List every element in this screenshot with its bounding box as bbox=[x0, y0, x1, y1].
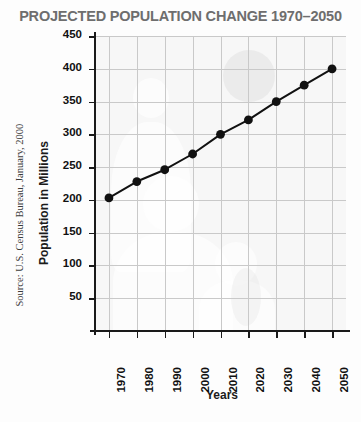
data-series bbox=[95, 36, 346, 331]
y-tick-label: 300 bbox=[42, 126, 82, 138]
series-markers bbox=[105, 64, 337, 202]
x-tick bbox=[304, 331, 306, 338]
x-tick bbox=[137, 331, 139, 338]
x-tick bbox=[221, 331, 223, 338]
x-tick-label: 2050 bbox=[338, 367, 350, 409]
y-tick-label: 100 bbox=[42, 257, 82, 269]
x-tick-label: 2040 bbox=[310, 367, 322, 409]
y-tick-label: 400 bbox=[42, 61, 82, 73]
x-tick-label: 2030 bbox=[282, 367, 294, 409]
x-tick-label: 1990 bbox=[171, 367, 183, 409]
x-tick-label: 2000 bbox=[199, 367, 211, 409]
x-tick-label: 2010 bbox=[227, 367, 239, 409]
y-tick-label: 150 bbox=[42, 225, 82, 237]
data-point bbox=[300, 81, 309, 90]
y-tick-label: 450 bbox=[42, 28, 82, 40]
x-tick bbox=[165, 331, 167, 338]
data-point bbox=[105, 194, 114, 203]
x-tick bbox=[109, 331, 111, 338]
x-tick bbox=[193, 331, 195, 338]
page-title: PROJECTED POPULATION CHANGE 1970–2050 bbox=[0, 8, 361, 24]
x-tick bbox=[276, 331, 278, 338]
x-tick bbox=[248, 331, 250, 338]
x-tick-label: 1980 bbox=[143, 367, 155, 409]
y-tick-label: 250 bbox=[42, 159, 82, 171]
x-tick bbox=[332, 331, 334, 338]
x-tick-label: 1970 bbox=[115, 367, 127, 409]
data-point bbox=[244, 116, 253, 125]
data-point bbox=[272, 97, 281, 106]
y-tick-label: 350 bbox=[42, 94, 82, 106]
y-tick-label: 50 bbox=[42, 290, 82, 302]
source-credit: Source: U.S. Census Bureau, January, 200… bbox=[14, 97, 25, 307]
data-point bbox=[160, 165, 169, 174]
data-point bbox=[132, 177, 141, 186]
y-tick-label: 200 bbox=[42, 192, 82, 204]
data-point bbox=[328, 64, 337, 73]
data-point bbox=[188, 150, 197, 159]
chart-page: PROJECTED POPULATION CHANGE 1970–2050 So… bbox=[0, 0, 361, 422]
data-point bbox=[216, 130, 225, 139]
plot-region: 50100150200250300350400450 1970198019902… bbox=[95, 36, 346, 331]
x-tick-label: 2020 bbox=[254, 367, 266, 409]
